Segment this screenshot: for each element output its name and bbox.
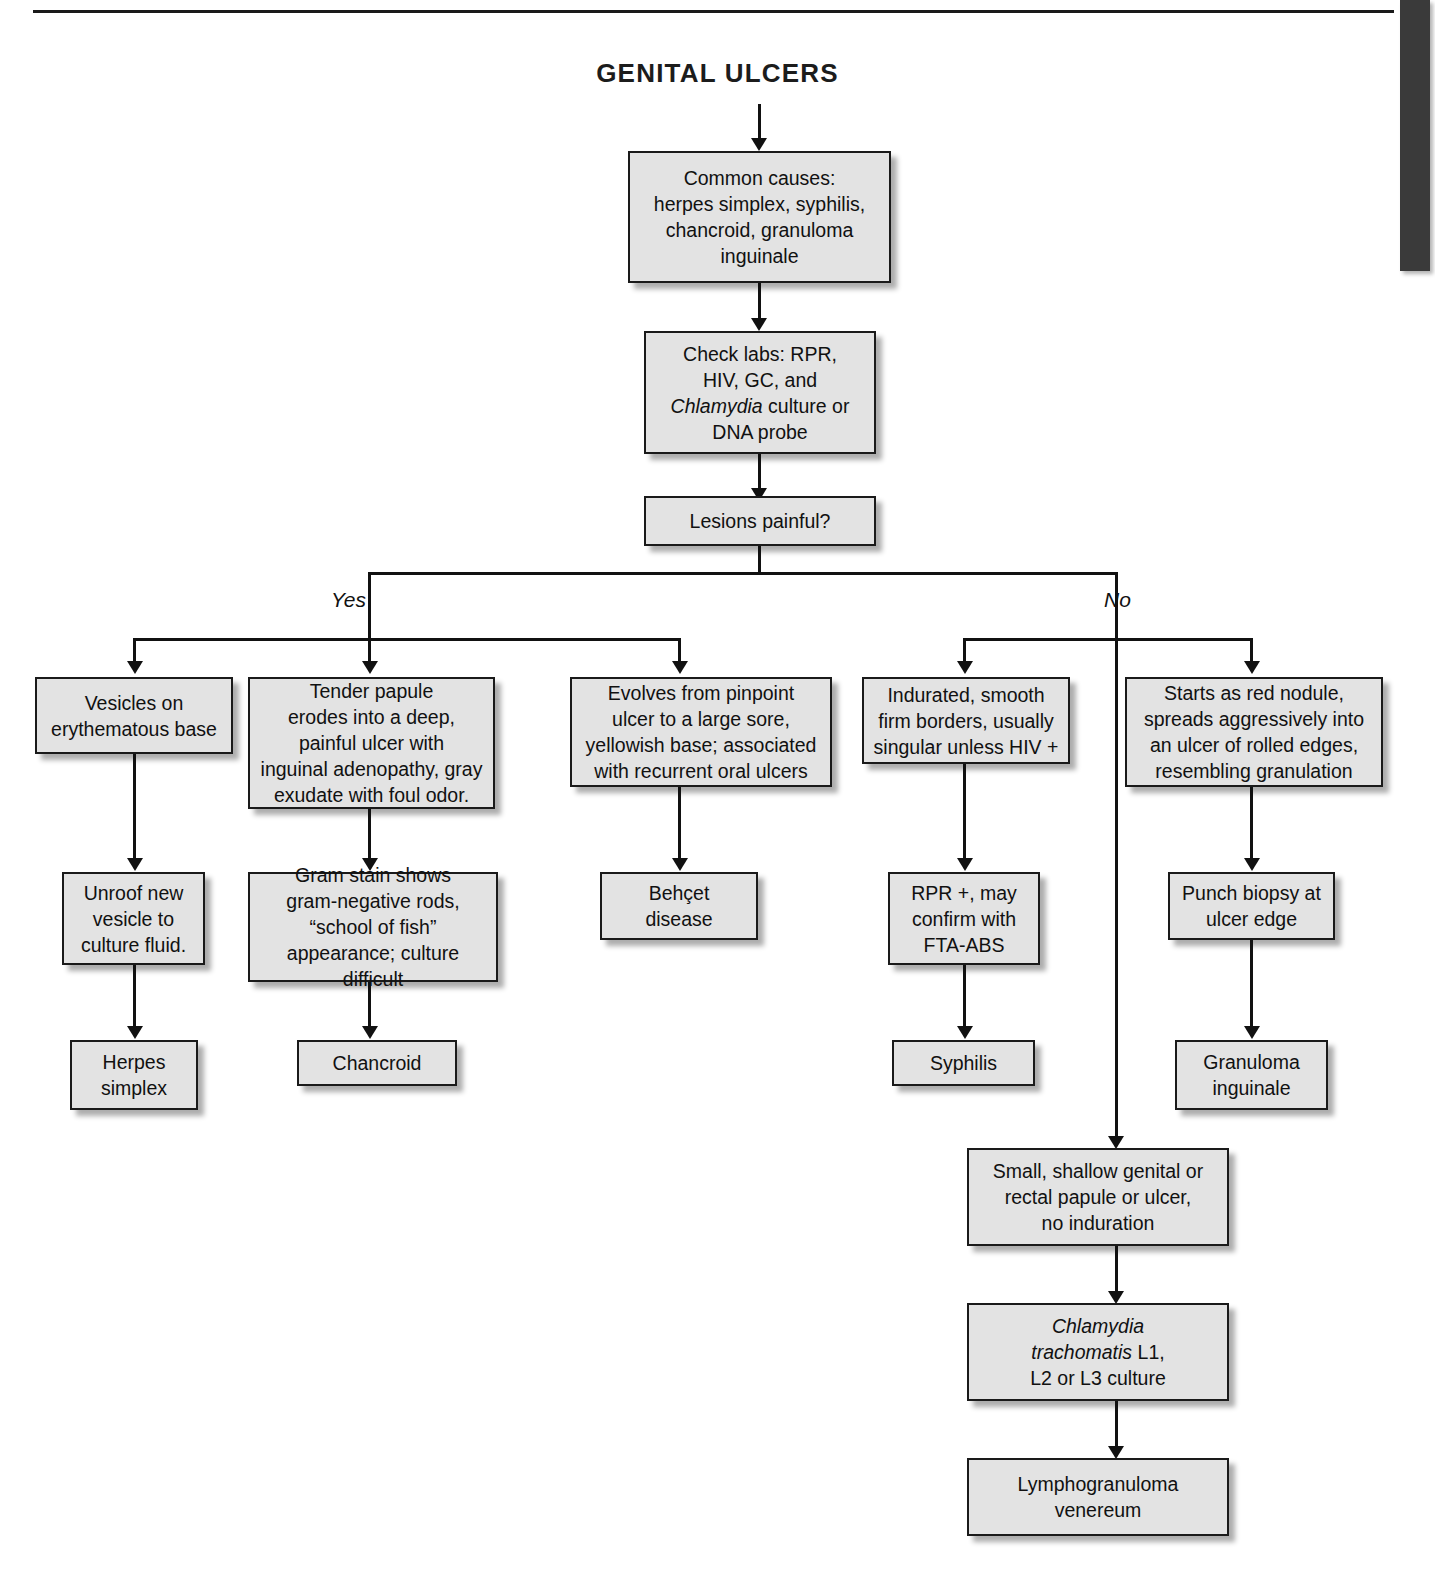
page-top-rule [33, 10, 1394, 13]
branch-label-yes: Yes [331, 588, 366, 612]
edge-no-hbar [963, 638, 1253, 641]
node-check-labs-label: Check labs: RPR,HIV, GC, andChlamydia cu… [652, 341, 868, 445]
node-lesions-painful-decision: Lesions painful? [644, 496, 876, 546]
node-behcet-label: Behçet disease [608, 880, 750, 932]
node-granuloma-inguinale-label: Granuloma inguinale [1183, 1049, 1320, 1101]
node-tender-papule: Tender papule erodes into a deep, painfu… [248, 677, 495, 809]
edge-vesicles-to-unroof [133, 754, 136, 865]
node-chancroid: Chancroid [297, 1040, 457, 1086]
page-thumb-tab [1400, 0, 1430, 271]
node-lymphogranuloma-venereum: Lymphogranuloma venereum [967, 1458, 1229, 1536]
arrowhead [751, 138, 767, 151]
arrowhead [957, 858, 973, 871]
edge-decision-hbar [368, 572, 1118, 575]
node-punch-biopsy: Punch biopsy at ulcer edge [1168, 872, 1335, 940]
node-indurated-label: Indurated, smooth firm borders, usually … [870, 682, 1062, 760]
arrowhead [1244, 661, 1260, 674]
arrowhead [362, 1026, 378, 1039]
node-chlamydia-culture-label: Chlamydia trachomatis L1, L2 or L3 cultu… [975, 1313, 1221, 1391]
edge-indurated-to-rpr [963, 764, 966, 865]
arrowhead [127, 858, 143, 871]
arrowhead [957, 661, 973, 674]
branch-label-no: No [1104, 588, 1131, 612]
node-red-nodule-label: Starts as red nodule, spreads aggressive… [1133, 680, 1375, 784]
edge-tender-papule-to-gram-stain [368, 809, 371, 865]
edge-punch-biopsy-to-granuloma [1250, 940, 1253, 1033]
arrowhead [672, 661, 688, 674]
node-rpr-positive: RPR +, may confirm with FTA-ABS [888, 872, 1040, 965]
node-chlamydia-culture: Chlamydia trachomatis L1, L2 or L3 cultu… [967, 1303, 1229, 1401]
node-herpes-simplex-label: Herpes simplex [78, 1049, 190, 1101]
page-title: GENITAL ULCERS [0, 58, 1435, 89]
node-unroof-label: Unroof new vesicle to culture fluid. [70, 880, 197, 958]
node-evolves-pinpoint-label: Evolves from pinpoint ulcer to a large s… [578, 680, 824, 784]
node-red-nodule: Starts as red nodule, spreads aggressive… [1125, 677, 1383, 787]
node-check-labs: Check labs: RPR,HIV, GC, andChlamydia cu… [644, 331, 876, 454]
node-gram-stain: Gram stain shows gram-negative rods, “sc… [248, 872, 498, 982]
node-vesicles-erythematous: Vesicles on erythematous base [35, 677, 233, 754]
arrowhead [957, 1026, 973, 1039]
edge-decision-stem [758, 546, 761, 574]
flowchart-page: GENITAL ULCERS Common causes: herpes sim… [0, 0, 1435, 1583]
node-lgv-label: Lymphogranuloma venereum [975, 1471, 1221, 1523]
edge-rpr-to-syphilis [963, 965, 966, 1033]
node-rpr-label: RPR +, may confirm with FTA-ABS [896, 880, 1032, 958]
arrowhead [362, 661, 378, 674]
node-herpes-simplex: Herpes simplex [70, 1040, 198, 1110]
node-small-shallow-papule: Small, shallow genital or rectal papule … [967, 1148, 1229, 1246]
node-unroof-vesicle: Unroof new vesicle to culture fluid. [62, 872, 205, 965]
arrowhead [1244, 858, 1260, 871]
node-lesions-painful-label: Lesions painful? [652, 508, 868, 534]
edge-yes-drop [368, 572, 371, 640]
edge-no-long-drop [1115, 638, 1118, 1145]
edge-evolves-to-behcet [678, 787, 681, 865]
edge-yes-hbar [133, 638, 681, 641]
node-syphilis-label: Syphilis [900, 1050, 1027, 1076]
arrowhead [672, 858, 688, 871]
arrowhead [127, 661, 143, 674]
node-common-causes-label: Common causes: herpes simplex, syphilis,… [636, 165, 883, 269]
node-small-shallow-label: Small, shallow genital or rectal papule … [975, 1158, 1221, 1236]
node-gram-stain-label: Gram stain shows gram-negative rods, “sc… [256, 862, 490, 992]
node-chancroid-label: Chancroid [305, 1050, 449, 1076]
arrowhead [751, 318, 767, 331]
arrowhead [1244, 1026, 1260, 1039]
node-vesicles-label: Vesicles on erythematous base [43, 690, 225, 742]
node-granuloma-inguinale: Granuloma inguinale [1175, 1040, 1328, 1110]
arrowhead [127, 1026, 143, 1039]
node-evolves-pinpoint: Evolves from pinpoint ulcer to a large s… [570, 677, 832, 787]
edge-unroof-to-herpes [133, 965, 136, 1033]
node-indurated-smooth: Indurated, smooth firm borders, usually … [862, 677, 1070, 764]
node-behcet-disease: Behçet disease [600, 872, 758, 940]
edge-red-nodule-to-punch-biopsy [1250, 787, 1253, 865]
node-tender-papule-label: Tender papule erodes into a deep, painfu… [256, 678, 487, 808]
node-punch-biopsy-label: Punch biopsy at ulcer edge [1176, 880, 1327, 932]
node-syphilis: Syphilis [892, 1040, 1035, 1086]
node-common-causes: Common causes: herpes simplex, syphilis,… [628, 151, 891, 283]
